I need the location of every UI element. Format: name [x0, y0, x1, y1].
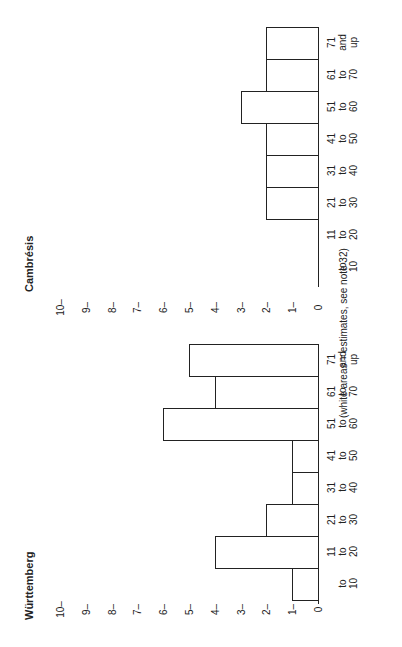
category-label-line: 50: [348, 440, 359, 472]
category-label-line: 21: [326, 504, 337, 536]
category-label-line: [326, 568, 337, 600]
category-label-line: 11: [326, 536, 337, 568]
bar: [292, 568, 319, 601]
category-label-line: 41: [326, 440, 337, 472]
axis-tick-label: 5–: [184, 600, 195, 620]
chart-title: Württemberg: [23, 552, 35, 620]
category-label-line: 20: [348, 536, 359, 568]
category-label: 31to40: [326, 472, 359, 504]
category-label: to10: [326, 568, 359, 600]
axis-tick-label: 10–: [55, 600, 66, 620]
bar: [266, 504, 319, 537]
category-label: 41to50: [326, 440, 359, 472]
category-label-line: up: [348, 344, 359, 376]
category-label: 11to20: [326, 536, 359, 568]
axis-tick-label: 8–: [106, 600, 117, 620]
category-label-line: 60: [348, 408, 359, 440]
category-label-line: 61: [326, 376, 337, 408]
bar: [215, 376, 319, 409]
category-label-line: to: [337, 440, 348, 472]
category-label-line: 51: [326, 408, 337, 440]
axis-tick-label: 7–: [132, 600, 143, 620]
bar: [292, 440, 319, 473]
category-label: 21to30: [326, 504, 359, 536]
category-label-line: 71: [326, 344, 337, 376]
bar: [292, 472, 319, 505]
bar: [189, 344, 319, 377]
bar: [163, 408, 319, 441]
axis-tick-label: 6–: [158, 600, 169, 620]
category-label-line: 10: [348, 568, 359, 600]
axis-tick-label: 2–: [261, 600, 272, 620]
category-label-line: to: [337, 472, 348, 504]
category-label-line: to: [337, 536, 348, 568]
axis-tick-label: 4–: [209, 600, 220, 620]
axis-tick-label: 9–: [80, 600, 91, 620]
bar: [215, 536, 319, 569]
axis-tick-label: 1–: [287, 600, 298, 620]
chart-note: (white areas = estimates, see note 32): [338, 248, 349, 418]
category-label-line: to: [337, 504, 348, 536]
axis-tick-label: 3–: [235, 600, 246, 620]
category-label-line: 30: [348, 504, 359, 536]
category-label-line: 31: [326, 472, 337, 504]
category-label-line: 40: [348, 472, 359, 504]
category-label-line: 70: [348, 376, 359, 408]
axis-tick-label: 0: [313, 600, 324, 620]
category-label-line: to: [337, 568, 348, 600]
